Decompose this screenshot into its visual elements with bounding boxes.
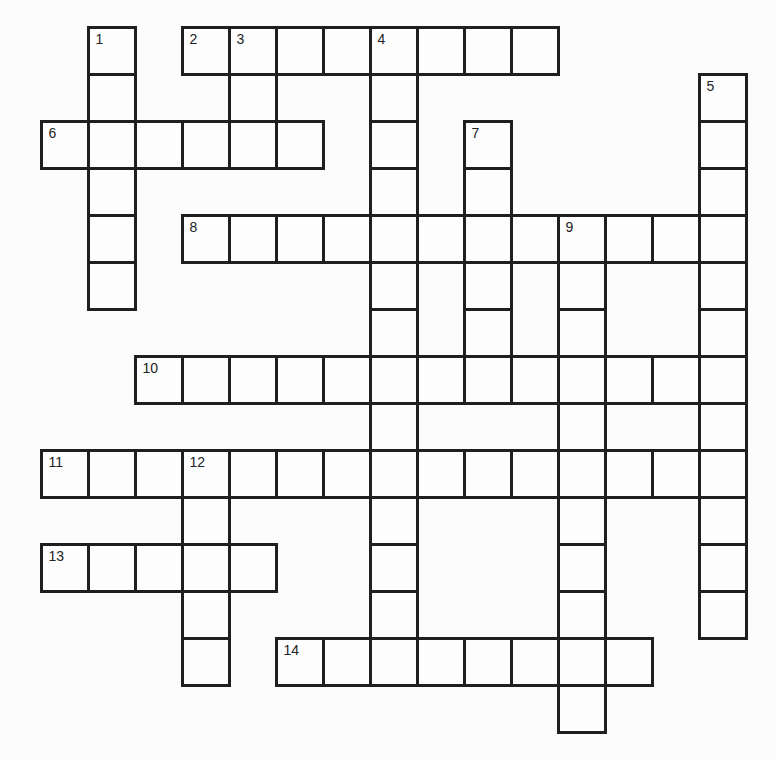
letter-input[interactable] [231, 84, 275, 116]
crossword-cell[interactable] [463, 449, 513, 499]
crossword-cell[interactable]: 2 [181, 26, 231, 76]
letter-input[interactable] [372, 319, 416, 351]
crossword-cell[interactable]: 8 [181, 214, 231, 264]
crossword-cell[interactable] [369, 637, 419, 687]
crossword-cell[interactable] [698, 355, 748, 405]
letter-input[interactable] [560, 507, 604, 539]
letter-input[interactable] [184, 601, 228, 633]
letter-input[interactable] [607, 225, 651, 257]
letter-input[interactable] [560, 695, 604, 727]
letter-input[interactable] [278, 648, 322, 680]
letter-input[interactable] [513, 225, 557, 257]
crossword-cell[interactable] [510, 449, 560, 499]
crossword-cell[interactable] [698, 167, 748, 217]
letter-input[interactable] [90, 460, 134, 492]
letter-input[interactable] [372, 225, 416, 257]
letter-input[interactable] [325, 37, 369, 69]
letter-input[interactable] [372, 178, 416, 210]
letter-input[interactable] [466, 648, 510, 680]
crossword-cell[interactable] [463, 355, 513, 405]
crossword-cell[interactable] [698, 402, 748, 452]
letter-input[interactable] [701, 272, 745, 304]
crossword-cell[interactable] [87, 120, 137, 170]
crossword-cell[interactable] [369, 73, 419, 123]
crossword-cell[interactable] [510, 355, 560, 405]
letter-input[interactable] [466, 319, 510, 351]
crossword-cell[interactable] [698, 496, 748, 546]
letter-input[interactable] [560, 272, 604, 304]
letter-input[interactable] [607, 366, 651, 398]
letter-input[interactable] [278, 37, 322, 69]
letter-input[interactable] [184, 554, 228, 586]
letter-input[interactable] [43, 131, 87, 163]
crossword-cell[interactable] [369, 496, 419, 546]
crossword-cell[interactable] [416, 214, 466, 264]
crossword-cell[interactable] [87, 73, 137, 123]
crossword-cell[interactable] [369, 120, 419, 170]
crossword-cell[interactable]: 11 [40, 449, 90, 499]
crossword-cell[interactable] [369, 449, 419, 499]
letter-input[interactable] [372, 37, 416, 69]
letter-input[interactable] [466, 366, 510, 398]
crossword-cell[interactable]: 12 [181, 449, 231, 499]
crossword-cell[interactable] [369, 590, 419, 640]
letter-input[interactable] [90, 554, 134, 586]
letter-input[interactable] [278, 366, 322, 398]
crossword-cell[interactable] [651, 355, 701, 405]
crossword-cell[interactable] [322, 214, 372, 264]
crossword-cell[interactable] [181, 590, 231, 640]
letter-input[interactable] [278, 225, 322, 257]
letter-input[interactable] [231, 554, 275, 586]
letter-input[interactable] [607, 648, 651, 680]
letter-input[interactable] [701, 554, 745, 586]
crossword-cell[interactable]: 5 [698, 73, 748, 123]
crossword-cell[interactable] [275, 355, 325, 405]
crossword-cell[interactable]: 14 [275, 637, 325, 687]
letter-input[interactable] [372, 460, 416, 492]
letter-input[interactable] [137, 460, 181, 492]
letter-input[interactable] [90, 37, 134, 69]
crossword-cell[interactable] [369, 167, 419, 217]
crossword-cell[interactable] [228, 543, 278, 593]
crossword-cell[interactable] [463, 167, 513, 217]
letter-input[interactable] [466, 131, 510, 163]
crossword-cell[interactable] [463, 214, 513, 264]
letter-input[interactable] [43, 460, 87, 492]
letter-input[interactable] [137, 131, 181, 163]
letter-input[interactable] [372, 366, 416, 398]
crossword-cell[interactable]: 13 [40, 543, 90, 593]
crossword-cell[interactable] [557, 402, 607, 452]
letter-input[interactable] [419, 225, 463, 257]
crossword-cell[interactable] [228, 214, 278, 264]
crossword-cell[interactable] [228, 355, 278, 405]
crossword-cell[interactable] [322, 26, 372, 76]
letter-input[interactable] [513, 366, 557, 398]
crossword-cell[interactable] [87, 543, 137, 593]
crossword-cell[interactable] [228, 449, 278, 499]
letter-input[interactable] [372, 601, 416, 633]
letter-input[interactable] [419, 460, 463, 492]
letter-input[interactable] [231, 37, 275, 69]
letter-input[interactable] [43, 554, 87, 586]
letter-input[interactable] [701, 84, 745, 116]
letter-input[interactable] [184, 507, 228, 539]
letter-input[interactable] [325, 648, 369, 680]
letter-input[interactable] [231, 366, 275, 398]
letter-input[interactable] [560, 601, 604, 633]
crossword-cell[interactable] [181, 496, 231, 546]
crossword-cell[interactable] [604, 214, 654, 264]
letter-input[interactable] [654, 366, 698, 398]
crossword-cell[interactable]: 7 [463, 120, 513, 170]
crossword-cell[interactable] [322, 355, 372, 405]
crossword-cell[interactable] [651, 214, 701, 264]
crossword-cell[interactable] [416, 637, 466, 687]
letter-input[interactable] [701, 225, 745, 257]
letter-input[interactable] [701, 319, 745, 351]
crossword-cell[interactable]: 1 [87, 26, 137, 76]
crossword-cell[interactable] [557, 543, 607, 593]
crossword-cell[interactable] [698, 214, 748, 264]
crossword-cell[interactable] [275, 214, 325, 264]
crossword-cell[interactable] [604, 637, 654, 687]
crossword-cell[interactable] [228, 73, 278, 123]
crossword-cell[interactable] [134, 120, 184, 170]
